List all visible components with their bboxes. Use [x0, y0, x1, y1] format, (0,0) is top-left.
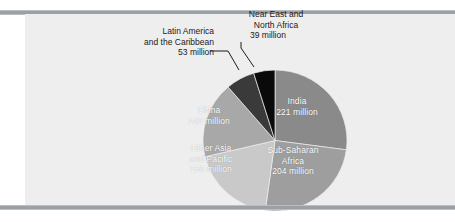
callout-near-east-name2: North Africa [228, 20, 324, 31]
slice-label-sub-saharan-africa-value: 204 million [254, 166, 332, 177]
callout-latin-america-name2: and the Caribbean [106, 37, 214, 48]
callout-near-east-value: 39 million [228, 30, 324, 41]
pie-chart [203, 70, 347, 211]
slice-label-sub-saharan-africa-name2: Africa [254, 156, 332, 167]
callout-near-east-name1: Near East and [228, 9, 324, 20]
slice-label-other-asia-value: 156 million [178, 164, 244, 175]
slice-label-india-value: 221 million [262, 107, 332, 118]
leader-line-near-east-north-africa [240, 42, 266, 68]
figure-container: India 221 million Sub-Saharan Africa 204… [0, 0, 455, 222]
slice-label-india: India 221 million [262, 96, 332, 117]
slice-label-other-asia-name2: and Pacific [178, 154, 244, 165]
slice-label-other-asia-name1: Other Asia [178, 143, 244, 154]
slice-label-china: China 142 million [178, 105, 240, 126]
slice-label-china-name: China [178, 105, 240, 116]
callout-label-latin-america: Latin America and the Caribbean 53 milli… [106, 26, 214, 58]
callout-latin-america-value: 53 million [106, 47, 214, 58]
bottom-divider-rule [0, 205, 455, 210]
slice-label-india-name: India [262, 96, 332, 107]
slice-label-other-asia-and-pacific: Other Asia and Pacific 156 million [178, 143, 244, 175]
callout-label-near-east-north-africa: Near East and North Africa 39 million [228, 9, 324, 41]
pie-svg [203, 70, 347, 211]
slice-label-china-value: 142 million [178, 116, 240, 127]
slice-label-sub-saharan-africa: Sub-Saharan Africa 204 million [254, 145, 332, 177]
callout-latin-america-name1: Latin America [106, 26, 214, 37]
slice-label-sub-saharan-africa-name1: Sub-Saharan [254, 145, 332, 156]
leader-line-latin-america [210, 50, 240, 72]
